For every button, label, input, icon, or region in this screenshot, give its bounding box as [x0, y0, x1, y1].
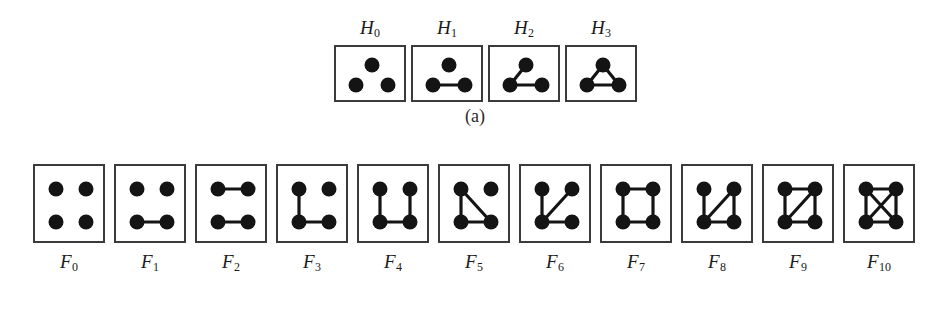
graph-vertex [373, 215, 388, 230]
graph-label-subscript: 2 [528, 26, 534, 40]
graph-vertex [616, 182, 631, 197]
graph-drawing-h3 [567, 47, 639, 104]
graph-vertex [160, 182, 175, 197]
graph-label-f8: F8 [708, 252, 726, 273]
graph-label-subscript: 4 [396, 260, 402, 274]
graph-vertex [484, 215, 499, 230]
graph-vertex [535, 78, 550, 93]
graph-label-base: H [514, 17, 528, 38]
graph-vertex [211, 182, 226, 197]
graph-vertex [808, 182, 823, 197]
graph-cell-h3: H3 [565, 18, 637, 102]
graph-vertex [808, 215, 823, 230]
graph-vertex [292, 215, 307, 230]
graph-box-f8 [681, 164, 753, 243]
graph-vertex [211, 215, 226, 230]
graph-vertex [79, 182, 94, 197]
graph-label-subscript: 3 [315, 260, 321, 274]
graph-cell-f3: F3 [276, 164, 348, 273]
graph-vertex [349, 78, 364, 93]
graph-label-h2: H2 [514, 18, 534, 39]
graph-cell-h0: H0 [334, 18, 406, 102]
graph-vertex [727, 182, 742, 197]
graph-drawing-f7 [602, 166, 674, 245]
graph-vertex [79, 215, 94, 230]
graph-cell-f9: F9 [762, 164, 834, 273]
graph-label-f7: F7 [627, 252, 645, 273]
graph-box-f4 [357, 164, 429, 243]
graph-label-f3: F3 [303, 252, 321, 273]
graph-label-subscript: 7 [639, 260, 645, 274]
graph-label-base: F [60, 251, 72, 272]
graph-vertex [697, 215, 712, 230]
graph-box-f7 [600, 164, 672, 243]
graph-vertex [778, 215, 793, 230]
graph-vertex [454, 182, 469, 197]
graph-label-h0: H0 [360, 18, 380, 39]
graph-vertex [454, 215, 469, 230]
graph-box-h1 [411, 45, 483, 102]
graph-vertex [241, 182, 256, 197]
graph-vertex [596, 58, 611, 73]
graph-row-f: F0F1F2F3F4F5F6F7F8F9F10 [33, 164, 915, 273]
graph-vertex [646, 182, 661, 197]
graph-label-subscript: 2 [234, 260, 240, 274]
graph-label-base: H [360, 17, 374, 38]
graph-label-f0: F0 [60, 252, 78, 273]
graph-label-base: F [789, 251, 801, 272]
graph-vertex [484, 182, 499, 197]
graph-box-f10 [843, 164, 915, 243]
graph-vertex [565, 182, 580, 197]
graph-vertex [322, 215, 337, 230]
graph-cell-f0: F0 [33, 164, 105, 273]
graph-cell-f1: F1 [114, 164, 186, 273]
graph-label-f1: F1 [141, 252, 159, 273]
graph-drawing-f9 [764, 166, 836, 245]
graph-vertex [859, 182, 874, 197]
graph-label-base: F [141, 251, 153, 272]
graph-label-base: H [591, 17, 605, 38]
graph-drawing-f6 [521, 166, 593, 245]
graph-label-base: F [708, 251, 720, 272]
graph-box-f0 [33, 164, 105, 243]
graph-vertex [535, 182, 550, 197]
graph-cell-f8: F8 [681, 164, 753, 273]
graph-label-f10: F10 [867, 252, 891, 273]
graph-drawing-h1 [413, 47, 485, 104]
graph-cell-f4: F4 [357, 164, 429, 273]
graph-cell-f5: F5 [438, 164, 510, 273]
graph-label-h1: H1 [437, 18, 457, 39]
graph-label-base: F [627, 251, 639, 272]
graph-label-subscript: 8 [720, 260, 726, 274]
graph-vertex [519, 58, 534, 73]
graph-vertex [426, 78, 441, 93]
graph-vertex [889, 215, 904, 230]
graph-drawing-f8 [683, 166, 755, 245]
figure-root: H0H1H2H3 (a) F0F1F2F3F4F5F6F7F8F9F10 (b) [0, 0, 950, 324]
graph-label-f6: F6 [546, 252, 564, 273]
graph-vertex [403, 215, 418, 230]
graph-label-base: F [303, 251, 315, 272]
graph-label-base: F [384, 251, 396, 272]
graph-drawing-h2 [490, 47, 562, 104]
graph-drawing-f10 [845, 166, 917, 245]
graph-label-subscript: 0 [72, 260, 78, 274]
graph-vertex [130, 182, 145, 197]
graph-vertex [322, 182, 337, 197]
graph-label-base: H [437, 17, 451, 38]
graph-label-subscript: 1 [153, 260, 159, 274]
graph-drawing-f4 [359, 166, 431, 245]
graph-vertex [859, 215, 874, 230]
graph-vertex [646, 215, 661, 230]
graph-label-f2: F2 [222, 252, 240, 273]
graph-vertex [130, 215, 145, 230]
graph-label-subscript: 5 [477, 260, 483, 274]
graph-cell-f6: F6 [519, 164, 591, 273]
graph-vertex [612, 78, 627, 93]
graph-label-subscript: 6 [558, 260, 564, 274]
graph-box-f5 [438, 164, 510, 243]
graph-label-f5: F5 [465, 252, 483, 273]
graph-vertex [889, 182, 904, 197]
graph-drawing-f0 [35, 166, 107, 245]
graph-vertex [565, 215, 580, 230]
